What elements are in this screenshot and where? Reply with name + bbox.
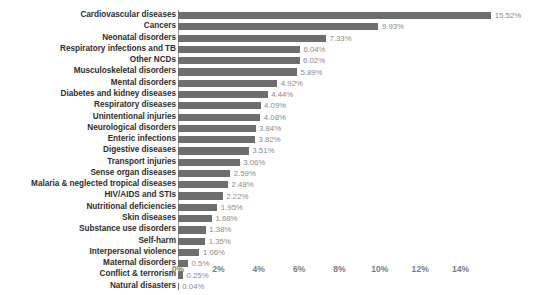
bar-row: Enteric infections3.82%	[0, 134, 535, 145]
bar-row: Other NCDs6.02%	[0, 55, 535, 66]
bar-value-label: 7.33%	[329, 34, 351, 43]
bar-value-label: 1.35%	[209, 237, 231, 246]
bar-row: Neonatal disorders7.33%	[0, 33, 535, 44]
bar	[178, 159, 240, 166]
bar-row: Interpersonal violence1.06%	[0, 247, 535, 258]
category-label: Enteric infections	[0, 134, 176, 144]
bar-value-label: 1.95%	[221, 203, 243, 212]
category-label: Neonatal disorders	[0, 33, 176, 43]
x-tick-label: 8%	[333, 264, 345, 275]
x-tick-label: 10%	[371, 264, 388, 275]
category-label: Diabetes and kidney diseases	[0, 89, 176, 99]
bar	[178, 204, 217, 211]
bar-row: Respiratory infections and TB6.04%	[0, 44, 535, 55]
category-label: Sense organ diseases	[0, 168, 176, 178]
bar-row: Respiratory diseases4.09%	[0, 100, 535, 111]
category-label: Substance use disorders	[0, 224, 176, 234]
bar	[178, 57, 300, 64]
category-label: Mental disorders	[0, 78, 176, 88]
bar-value-label: 2.59%	[234, 169, 256, 178]
x-tick-label: 12%	[412, 264, 429, 275]
category-label: Self-harm	[0, 236, 176, 246]
bar-value-label: 0.04%	[182, 282, 204, 291]
bar-value-label: 9.93%	[382, 22, 404, 31]
category-label: Digestive diseases	[0, 145, 176, 155]
bar-value-label: 3.51%	[252, 146, 274, 155]
bar-value-label: 6.04%	[303, 45, 325, 54]
category-label: Neurological disorders	[0, 123, 176, 133]
bar	[178, 249, 199, 256]
x-tick-label: 0%	[172, 264, 184, 275]
bar	[178, 147, 249, 154]
bar-row: Natural disasters0.04%	[0, 281, 535, 292]
bar-value-label: 4.08%	[264, 113, 286, 122]
category-label: Respiratory diseases	[0, 100, 176, 110]
category-label: Malaria & neglected tropical diseases	[0, 179, 176, 189]
bar-row: Sense organ diseases2.59%	[0, 168, 535, 179]
bar-row: Musculoskeletal disorders5.89%	[0, 66, 535, 77]
bar	[178, 238, 205, 245]
bar	[178, 192, 223, 199]
bar	[178, 102, 261, 109]
bar-value-label: 5.89%	[300, 68, 322, 77]
bar	[178, 170, 230, 177]
bar-value-label: 1.06%	[203, 248, 225, 257]
bar-value-label: 4.09%	[264, 101, 286, 110]
bar	[178, 283, 179, 290]
bar-row: Cancers9.93%	[0, 21, 535, 32]
bar	[178, 226, 206, 233]
bar-row: Skin diseases1.68%	[0, 213, 535, 224]
category-label: HIV/AIDS and STIs	[0, 190, 176, 200]
bar-value-label: 3.06%	[243, 158, 265, 167]
bar	[178, 80, 277, 87]
bar-row: Unintentional injuries4.08%	[0, 112, 535, 123]
bar	[178, 125, 256, 132]
bar-row: Cardiovascular diseases15.52%	[0, 10, 535, 21]
bar-value-label: 1.68%	[215, 214, 237, 223]
x-axis-tick-labels: 0%2%4%6%8%10%12%14%	[0, 264, 535, 278]
category-label: Other NCDs	[0, 55, 176, 65]
bar	[178, 181, 228, 188]
bar	[178, 136, 255, 143]
bar-value-label: 2.22%	[226, 192, 248, 201]
bar-row: Malaria & neglected tropical diseases2.4…	[0, 179, 535, 190]
bar-value-label: 4.44%	[271, 90, 293, 99]
bar-row: Diabetes and kidney diseases4.44%	[0, 89, 535, 100]
bar-value-label: 15.52%	[495, 11, 521, 20]
bar	[178, 23, 378, 30]
bar-row: Substance use disorders1.38%	[0, 224, 535, 235]
bar-row: Digestive diseases3.51%	[0, 145, 535, 156]
bar	[178, 46, 300, 53]
category-label: Nutritional deficiencies	[0, 202, 176, 212]
bar-value-label: 3.84%	[259, 124, 281, 133]
bar	[178, 114, 260, 121]
horizontal-bar-chart: Cardiovascular diseases15.52%Cancers9.93…	[0, 0, 535, 295]
bar-row: Nutritional deficiencies1.95%	[0, 202, 535, 213]
category-label: Transport injuries	[0, 157, 176, 167]
category-label: Interpersonal violence	[0, 247, 176, 257]
category-label: Skin diseases	[0, 213, 176, 223]
x-tick-label: 6%	[293, 264, 305, 275]
x-tick-label: 4%	[253, 264, 265, 275]
bar-value-label: 2.48%	[232, 180, 254, 189]
category-label: Respiratory infections and TB	[0, 44, 176, 54]
bar-row: Transport injuries3.06%	[0, 157, 535, 168]
bar	[178, 68, 297, 75]
bar-value-label: 4.92%	[281, 79, 303, 88]
bar	[178, 12, 491, 19]
category-label: Musculoskeletal disorders	[0, 66, 176, 76]
category-label: Unintentional injuries	[0, 112, 176, 122]
bar-value-label: 6.02%	[303, 56, 325, 65]
category-label: Cancers	[0, 21, 176, 31]
category-label: Cardiovascular diseases	[0, 10, 176, 20]
bar-row: Self-harm1.35%	[0, 236, 535, 247]
bar-row: Neurological disorders3.84%	[0, 123, 535, 134]
bar	[178, 91, 268, 98]
bar-value-label: 1.38%	[209, 225, 231, 234]
bar	[178, 215, 212, 222]
bar	[178, 35, 326, 42]
x-tick-label: 14%	[452, 264, 469, 275]
bar-row: HIV/AIDS and STIs2.22%	[0, 190, 535, 201]
x-tick-label: 2%	[212, 264, 224, 275]
category-label: Natural disasters	[0, 281, 176, 291]
